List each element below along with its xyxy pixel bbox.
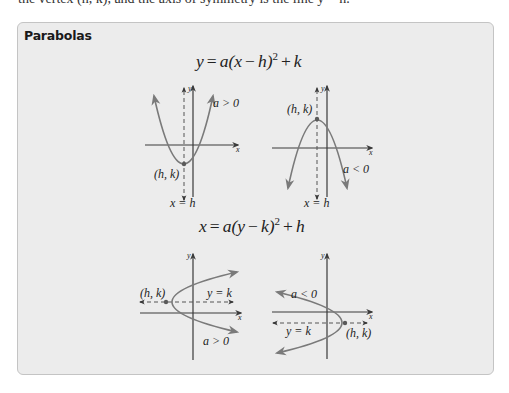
condition-label: a > 0 [203, 334, 229, 348]
vertex-point [343, 321, 347, 325]
axis-of-symmetry-label: x = h [169, 196, 195, 210]
x-axis-label: x [368, 312, 373, 321]
vertex-point [182, 162, 186, 166]
vertex-label: (h, k) [140, 286, 165, 300]
axis-of-symmetry-label: x = h [303, 196, 329, 210]
y-axis-label: y [187, 84, 192, 93]
x-axis-label: x [237, 313, 242, 322]
vertex-label: (h, k) [154, 167, 179, 181]
condition-label: a < 0 [291, 287, 317, 301]
vertex-label: (h, k) [287, 102, 312, 116]
graph-horizontal-opens-left: y x a < 0 (h, k) y = k [272, 251, 373, 359]
y-axis-label: y [320, 251, 325, 260]
x-axis-label: x [368, 148, 373, 157]
axis-of-symmetry-label: y = k [206, 286, 232, 300]
vertex-label: (h, k) [346, 326, 371, 340]
x-axis-label: x [235, 145, 240, 154]
axis-of-symmetry-label: y = k [285, 324, 311, 338]
y-axis-label: y [186, 251, 191, 260]
graph-vertical-opens-down: y x a < 0 (h, k) x = h [272, 84, 373, 210]
condition-label: a > 0 [213, 96, 239, 110]
condition-label: a < 0 [343, 162, 369, 176]
graph-vertical-opens-up: y x a > 0 (h, k) x = h [145, 84, 240, 210]
graph-horizontal-opens-right: y x a > 0 (h, k) y = k [140, 251, 242, 360]
y-axis-label: y [320, 84, 325, 93]
parabola-diagrams: y x a > 0 (h, k) x = h y x a < 0 (h, k) … [0, 0, 509, 393]
vertex-point [315, 117, 319, 121]
vertex-point [164, 300, 168, 304]
